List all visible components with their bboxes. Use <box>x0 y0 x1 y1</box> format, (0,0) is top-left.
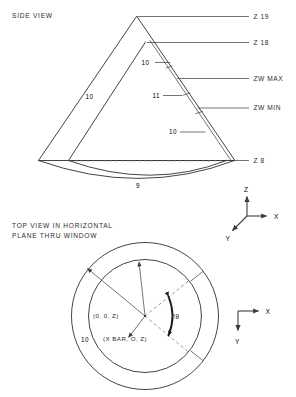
axis-label-y-top: Y <box>235 338 240 345</box>
dimension-lower-segment: 10 <box>169 128 177 135</box>
dimension-bottom-dish: 9 <box>136 182 140 189</box>
label-zw-max: ZW MAX <box>254 75 284 82</box>
label-z18: Z 18 <box>254 39 269 46</box>
top-view-angle-rays <box>145 281 189 352</box>
top-view-axis-pair <box>238 311 259 331</box>
dimension-middle-segment: 11 <box>153 92 160 99</box>
top-view-offset-label: (X BAR, O, Z) <box>103 335 147 342</box>
label-zw-min: ZW MIN <box>254 104 281 111</box>
top-view-title-line1: TOP VIEW IN HORIZONTAL <box>12 222 113 229</box>
side-view-outer-cone <box>39 17 235 161</box>
side-view-dished-bottom <box>39 161 235 179</box>
diagram-canvas: Z 19 Z 18 ZW MAX ZW MIN Z 8 10 10 11 10 … <box>0 0 296 397</box>
side-view-wall-dividers <box>166 66 203 114</box>
top-view-center-label: (0, 0, Z) <box>93 312 119 319</box>
label-z8: Z 8 <box>254 157 265 164</box>
top-view-radius-label: 10 <box>81 336 89 343</box>
top-view-title-line2: PLANE THRU WINDOW <box>12 232 97 239</box>
top-view-center-point <box>144 315 146 317</box>
dimension-upper-segment: 10 <box>142 59 150 66</box>
side-view-dimension-leaders <box>155 63 206 133</box>
axis-label-z-side: Z <box>244 186 248 193</box>
label-z19: Z 19 <box>254 13 269 20</box>
axis-label-x-side: X <box>274 213 279 220</box>
technical-diagram: Z 19 Z 18 ZW MAX ZW MIN Z 8 10 10 11 10 … <box>0 0 296 397</box>
side-view-title: SIDE VIEW <box>12 12 53 19</box>
axis-label-x-top: X <box>266 308 271 315</box>
side-view-leader-lines <box>138 17 250 161</box>
top-view-radius-arrows <box>88 262 146 338</box>
side-view-wall-band <box>150 41 231 161</box>
dimension-left-wall: 10 <box>86 93 94 100</box>
side-view-axis-triad <box>233 197 267 231</box>
axis-label-y-side: Y <box>226 235 231 242</box>
top-view-angle-label: 2θ <box>172 313 180 320</box>
